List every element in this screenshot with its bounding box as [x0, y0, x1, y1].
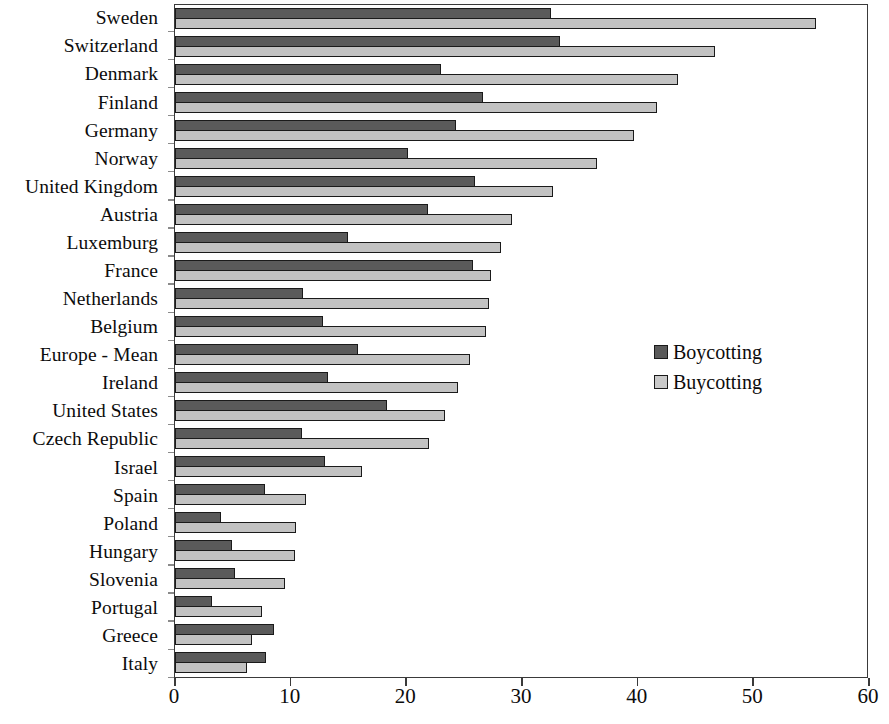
bar-buycotting — [175, 298, 489, 309]
bar-group — [175, 425, 867, 453]
bar-buycotting — [175, 494, 306, 505]
bar-boycotting — [175, 512, 221, 523]
bar-boycotting — [175, 652, 266, 663]
bar-buycotting — [175, 158, 597, 169]
bar-boycotting — [175, 64, 441, 75]
horizontal-bar-chart: SwedenSwitzerlandDenmarkFinlandGermanyNo… — [0, 0, 889, 724]
bar-buycotting — [175, 662, 247, 673]
bar-group — [175, 285, 867, 313]
bar-group — [175, 397, 867, 425]
bar-buycotting — [175, 606, 262, 617]
bar-boycotting — [175, 36, 560, 47]
category-label: Austria — [0, 201, 165, 229]
bar-group — [175, 509, 867, 537]
bar-group — [175, 313, 867, 341]
bar-buycotting — [175, 46, 715, 57]
bar-buycotting — [175, 438, 429, 449]
bar-buycotting — [175, 242, 501, 253]
category-label: Europe - Mean — [0, 341, 165, 369]
category-label: Israel — [0, 453, 165, 481]
bar-buycotting — [175, 550, 295, 561]
bar-group — [175, 537, 867, 565]
bar-boycotting — [175, 176, 475, 187]
category-axis-labels: SwedenSwitzerlandDenmarkFinlandGermanyNo… — [0, 4, 165, 678]
bar-buycotting — [175, 270, 491, 281]
bar-boycotting — [175, 372, 328, 383]
category-label: Spain — [0, 481, 165, 509]
bar-boycotting — [175, 120, 456, 131]
bar-buycotting — [175, 354, 470, 365]
category-label: France — [0, 257, 165, 285]
bar-group — [175, 33, 867, 61]
bar-group — [175, 621, 867, 649]
category-label: Switzerland — [0, 32, 165, 60]
value-tick-label: 10 — [279, 686, 300, 707]
value-tick-label: 0 — [169, 686, 180, 707]
bar-group — [175, 89, 867, 117]
bar-group — [175, 173, 867, 201]
bar-group — [175, 201, 867, 229]
bar-buycotting — [175, 130, 634, 141]
category-label: Slovenia — [0, 566, 165, 594]
bar-boycotting — [175, 288, 303, 299]
bar-buycotting — [175, 186, 553, 197]
bar-group — [175, 341, 867, 369]
bar-boycotting — [175, 568, 235, 579]
bar-buycotting — [175, 326, 486, 337]
bar-buycotting — [175, 466, 362, 477]
category-label: United States — [0, 397, 165, 425]
value-tick-label: 20 — [395, 686, 416, 707]
plot-area — [174, 4, 868, 678]
bar-group — [175, 369, 867, 397]
bar-boycotting — [175, 596, 212, 607]
bar-boycotting — [175, 400, 387, 411]
legend-entry: Boycotting — [654, 337, 762, 367]
bar-buycotting — [175, 18, 816, 29]
category-label: Italy — [0, 650, 165, 678]
bar-group — [175, 481, 867, 509]
category-label: Finland — [0, 88, 165, 116]
category-label: Poland — [0, 509, 165, 537]
bar-group — [175, 5, 867, 33]
bar-boycotting — [175, 92, 483, 103]
category-label: Denmark — [0, 60, 165, 88]
legend-entry: Buycotting — [654, 367, 762, 397]
category-label: Sweden — [0, 4, 165, 32]
category-label: Ireland — [0, 369, 165, 397]
bar-group — [175, 229, 867, 257]
bar-boycotting — [175, 428, 302, 439]
bar-buycotting — [175, 382, 458, 393]
category-label: Hungary — [0, 537, 165, 565]
category-label: Norway — [0, 144, 165, 172]
value-tick-label: 60 — [858, 686, 879, 707]
bar-group — [175, 649, 867, 677]
bar-boycotting — [175, 316, 323, 327]
value-tick-label: 40 — [626, 686, 647, 707]
bar-buycotting — [175, 74, 678, 85]
category-label: Greece — [0, 622, 165, 650]
bars-layer — [175, 5, 867, 677]
bar-group — [175, 565, 867, 593]
legend-swatch-icon — [654, 375, 668, 389]
bar-group — [175, 61, 867, 89]
bar-boycotting — [175, 540, 232, 551]
value-tick-label: 30 — [511, 686, 532, 707]
category-label: Belgium — [0, 313, 165, 341]
bar-buycotting — [175, 102, 657, 113]
bar-boycotting — [175, 456, 325, 467]
legend-label: Buycotting — [673, 372, 762, 392]
category-label: United Kingdom — [0, 172, 165, 200]
legend-swatch-icon — [654, 345, 668, 359]
category-label: Czech Republic — [0, 425, 165, 453]
bar-group — [175, 453, 867, 481]
bar-buycotting — [175, 522, 296, 533]
category-label: Portugal — [0, 594, 165, 622]
bar-boycotting — [175, 484, 265, 495]
category-label: Germany — [0, 116, 165, 144]
bar-boycotting — [175, 260, 473, 271]
value-axis-tick-labels: 0102030405060 — [174, 686, 868, 722]
bar-boycotting — [175, 204, 428, 215]
bar-buycotting — [175, 410, 445, 421]
bar-buycotting — [175, 578, 285, 589]
category-label: Luxemburg — [0, 229, 165, 257]
